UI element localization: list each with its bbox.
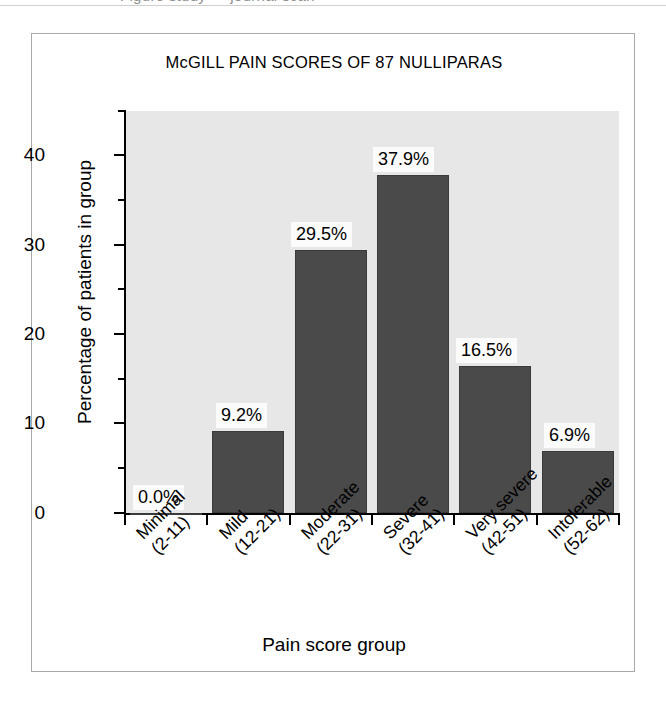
bar-label-moderate: 29.5%: [291, 222, 352, 247]
y-tick-label-0: 0: [0, 503, 45, 522]
y-tick-major-10: [114, 422, 125, 424]
y-tick-label-20: 20: [0, 324, 45, 343]
y-tick-minor-45: [118, 110, 125, 112]
x-tick-4: [453, 515, 455, 525]
bar-label-mild: 9.2%: [216, 403, 267, 428]
y-tick-minor-25: [118, 288, 125, 290]
y-tick-major-30: [114, 244, 125, 246]
y-tick-minor-35: [118, 199, 125, 201]
y-tick-minor-5: [118, 467, 125, 469]
y-axis-title: Percentage of patients in group: [74, 127, 96, 457]
bar-label-severe: 37.9%: [373, 147, 434, 172]
scan-artifact-rule: [0, 5, 666, 6]
y-axis-line: [124, 110, 126, 515]
y-tick-label-30: 30: [0, 235, 45, 254]
y-tick-major-40: [114, 154, 125, 156]
x-axis-title: Pain score group: [32, 634, 636, 656]
x-tick-2: [289, 515, 291, 525]
scan-artifact-text: Figure study — journal scan: [120, 0, 315, 4]
scan-artifact-strip: Figure study — journal scan: [0, 0, 666, 7]
bar-label-very-severe: 16.5%: [456, 338, 517, 363]
x-tick-3: [371, 515, 373, 525]
y-tick-label-40: 40: [0, 145, 45, 164]
y-tick-major-0: [114, 512, 125, 514]
y-tick-label-10: 10: [0, 413, 45, 432]
x-tick-1: [206, 515, 208, 525]
y-tick-major-20: [114, 333, 125, 335]
chart-title: McGILL PAIN SCORES OF 87 NULLIPARAS: [32, 53, 636, 72]
y-tick-minor-15: [118, 378, 125, 380]
x-tick-5: [536, 515, 538, 525]
figure-frame: McGILL PAIN SCORES OF 87 NULLIPARAS 40 3…: [31, 33, 635, 672]
x-tick-0: [124, 515, 126, 525]
x-tick-6: [618, 515, 620, 525]
